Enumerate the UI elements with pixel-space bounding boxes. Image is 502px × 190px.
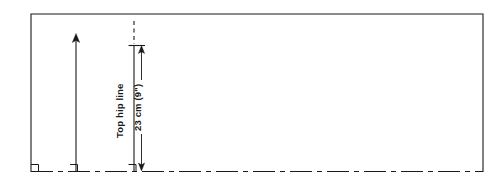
technical-drawing-canvas: Top hip line 23 cm (9"): [0, 0, 502, 190]
pattern-drawing: Top hip line 23 cm (9"): [0, 0, 502, 190]
measurement-label: 23 cm (9"): [132, 84, 143, 131]
top-hip-line-label: Top hip line: [114, 84, 125, 138]
right-angle-marker: [31, 165, 39, 172]
right-angle-marker: [129, 165, 137, 172]
pattern-outline-rectangle: [31, 14, 483, 172]
